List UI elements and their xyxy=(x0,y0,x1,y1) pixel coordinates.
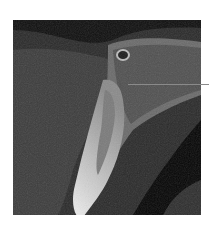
ct-scan-image xyxy=(13,20,201,215)
annotation-pointer-line xyxy=(128,84,209,85)
